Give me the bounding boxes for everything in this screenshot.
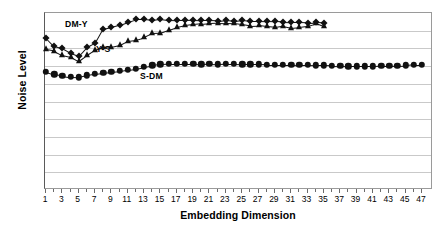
x-axis-minor-tick	[413, 189, 414, 192]
gridline	[45, 172, 431, 173]
data-point-y-s	[215, 19, 221, 25]
data-point-dm-y	[149, 17, 156, 24]
data-point-y-s	[68, 53, 74, 59]
x-axis-tick-mark	[143, 189, 144, 193]
gridline	[45, 84, 431, 85]
data-point-s-dm	[362, 63, 368, 69]
data-point-s-dm	[386, 63, 392, 69]
data-point-s-dm	[92, 71, 98, 77]
series-annotation-y-s: Y-S	[96, 44, 110, 54]
series-annotation-s-dm: S-DM	[140, 71, 163, 81]
data-point-s-dm	[337, 63, 343, 69]
data-point-s-dm	[67, 74, 73, 80]
x-axis-tick-mark	[258, 189, 259, 193]
x-axis-minor-tick	[86, 189, 87, 192]
data-point-y-s	[141, 33, 147, 39]
data-point-s-dm	[394, 63, 400, 69]
x-axis-tick-mark	[421, 189, 422, 193]
x-axis-minor-tick	[102, 189, 103, 192]
data-point-s-dm	[296, 62, 302, 68]
x-axis-minor-tick	[347, 189, 348, 192]
x-axis-minor-tick	[380, 189, 381, 192]
data-point-dm-y	[116, 21, 123, 28]
x-axis-minor-tick	[282, 189, 283, 192]
x-axis-tick-mark	[307, 189, 308, 193]
x-axis-tick-mark	[388, 189, 389, 193]
data-point-y-s	[313, 20, 319, 26]
x-axis-tick-label: 47	[411, 195, 431, 204]
x-axis-tick-mark	[159, 189, 160, 193]
x-axis-tick-mark	[208, 189, 209, 193]
data-point-s-dm	[59, 72, 65, 78]
data-point-dm-y	[108, 23, 115, 30]
data-point-y-s	[157, 29, 163, 35]
data-point-s-dm	[100, 70, 106, 76]
x-axis-minor-tick	[315, 189, 316, 192]
data-point-s-dm	[149, 62, 155, 68]
x-axis-minor-tick	[119, 189, 120, 192]
x-axis-minor-tick	[184, 189, 185, 192]
data-point-y-s	[133, 36, 139, 42]
data-point-y-s	[59, 51, 65, 57]
data-point-s-dm	[370, 63, 376, 69]
data-point-dm-y	[165, 17, 172, 24]
data-point-y-s	[206, 19, 212, 25]
data-point-s-dm	[84, 72, 90, 78]
data-point-s-dm	[116, 68, 122, 74]
x-axis-tick-mark	[339, 189, 340, 193]
x-axis-tick-mark	[356, 189, 357, 193]
data-point-y-s	[256, 22, 262, 28]
data-point-s-dm	[345, 63, 351, 69]
x-axis-tick-mark	[78, 189, 79, 193]
data-point-y-s	[174, 23, 180, 29]
x-axis-minor-tick	[217, 189, 218, 192]
gridline	[45, 102, 431, 103]
data-point-y-s	[231, 20, 237, 26]
data-point-y-s	[264, 23, 270, 29]
x-axis-tick-mark	[192, 189, 193, 193]
data-point-y-s	[84, 52, 90, 58]
data-point-y-s	[190, 21, 196, 27]
x-axis-tick-mark	[45, 189, 46, 193]
data-point-dm-y	[132, 16, 139, 23]
data-point-y-s	[198, 20, 204, 26]
data-point-s-dm	[108, 69, 114, 75]
x-axis-minor-tick	[249, 189, 250, 192]
x-axis-minor-tick	[53, 189, 54, 192]
x-axis-tick-mark	[110, 189, 111, 193]
data-point-s-dm	[133, 65, 139, 71]
x-axis-minor-tick	[396, 189, 397, 192]
data-point-y-s	[247, 22, 253, 28]
plot-area: DM-Y Y-S S-DM	[44, 12, 432, 189]
data-point-y-s	[149, 29, 155, 35]
x-axis-minor-tick	[135, 189, 136, 192]
x-axis-title: Embedding Dimension	[44, 209, 432, 221]
data-point-s-dm	[313, 62, 319, 68]
data-point-s-dm	[304, 62, 310, 68]
data-point-y-s	[51, 47, 57, 53]
data-point-s-dm	[402, 62, 408, 68]
data-point-y-s	[296, 23, 302, 29]
data-point-y-s	[125, 37, 131, 43]
data-point-y-s	[223, 19, 229, 25]
data-point-y-s	[166, 26, 172, 32]
data-point-y-s	[288, 24, 294, 30]
data-point-y-s	[272, 23, 278, 29]
x-axis-minor-tick	[298, 189, 299, 192]
data-point-s-dm	[51, 71, 57, 77]
data-point-y-s	[239, 21, 245, 27]
x-axis-tick-mark	[372, 189, 373, 193]
x-axis-tick-mark	[94, 189, 95, 193]
data-point-s-dm	[75, 74, 81, 80]
x-axis-tick-mark	[127, 189, 128, 193]
data-point-s-dm	[321, 62, 327, 68]
data-point-y-s	[321, 23, 327, 29]
data-point-y-s	[182, 22, 188, 28]
x-axis-tick-mark	[241, 189, 242, 193]
noise-level-chart: Noise Level 0.05.010.015.020.025.030.035…	[0, 0, 440, 231]
data-point-y-s	[43, 46, 49, 52]
x-axis-minor-tick	[151, 189, 152, 192]
x-axis-minor-tick	[70, 189, 71, 192]
x-axis-minor-tick	[233, 189, 234, 192]
data-point-y-s	[117, 41, 123, 47]
